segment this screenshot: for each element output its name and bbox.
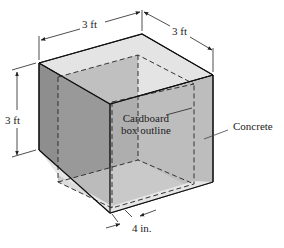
label-width-top-right: 3 ft xyxy=(172,25,187,37)
label-wall-thickness: 4 in. xyxy=(132,222,152,234)
label-cardboard: Cardboard box outline xyxy=(121,112,171,136)
label-concrete: Concrete xyxy=(233,120,273,132)
label-height-left: 3 ft xyxy=(5,114,20,126)
dimension-left xyxy=(12,63,36,157)
label-width-top-left: 3 ft xyxy=(82,18,97,30)
label-cardboard-line2: box outline xyxy=(121,124,171,136)
label-cardboard-line1: Cardboard xyxy=(121,112,171,124)
